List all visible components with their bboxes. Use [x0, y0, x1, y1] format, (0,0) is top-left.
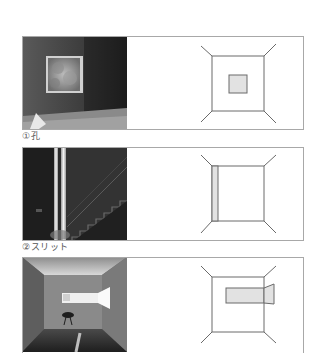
- hole-opening: [229, 75, 247, 93]
- photo-hole-window: [22, 36, 127, 130]
- photo-horizontal-window-room: [22, 257, 127, 352]
- horizontal-window-opening: [226, 288, 264, 303]
- diagram-slit: [127, 147, 304, 241]
- diagram-horizontal-window: [127, 257, 304, 352]
- caption-slit: ②スリット: [22, 242, 69, 252]
- figure-panel-horizontal-window: [22, 257, 304, 353]
- slit-opening: [212, 166, 218, 221]
- figure-panel-slit: [22, 147, 304, 241]
- diagram-hole: [127, 36, 304, 130]
- caption-hole: ①孔: [22, 131, 40, 141]
- window-reveal-side: [264, 284, 274, 304]
- figure-panel-hole: [22, 36, 304, 130]
- photo-slit-stairs: [22, 147, 127, 241]
